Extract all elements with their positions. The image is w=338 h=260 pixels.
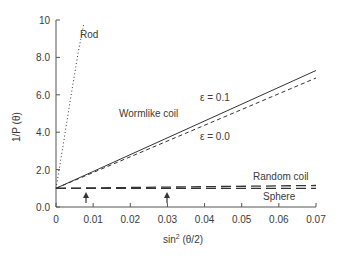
arrow-icon (164, 192, 170, 203)
y-tick-label: 4.0 (36, 127, 50, 138)
y-tick-label: 6.0 (36, 90, 50, 101)
x-tick-label: 0 (53, 214, 59, 225)
y-tick-label: 0.0 (36, 202, 50, 213)
x-tick-label: 0.07 (306, 214, 326, 225)
label-random-coil: Random coil (253, 171, 309, 182)
series (56, 24, 316, 189)
y-tick-label: 10 (39, 15, 51, 26)
y-tick-label: 2.0 (36, 165, 50, 176)
label-wormlike: Wormlike coil (119, 108, 178, 119)
chart: 0.02.04.06.08.010 00.010.020.030.040.050… (0, 0, 338, 260)
x-tick-label: 0.01 (83, 214, 103, 225)
x-tick-label: 0.05 (232, 214, 252, 225)
x-ticks: 00.010.020.030.040.050.060.07 (53, 203, 326, 225)
label-eps-0-1: ε = 0.1 (200, 92, 230, 103)
label-eps-0-0: ε = 0.0 (200, 131, 230, 142)
y-axis-title: 1/P (θ) (11, 112, 22, 142)
y-tick-label: 8.0 (36, 52, 50, 63)
x-tick-label: 0.02 (121, 214, 141, 225)
label-sphere: Sphere (263, 191, 296, 202)
arrow-markers (83, 192, 170, 203)
arrow-icon (83, 192, 89, 203)
label-rod: Rod (80, 29, 98, 40)
series-line (56, 24, 84, 189)
x-tick-label: 0.03 (158, 214, 178, 225)
x-tick-label: 0.04 (195, 214, 215, 225)
x-tick-label: 0.06 (269, 214, 289, 225)
x-axis-title: sin2 (θ/2) (163, 233, 203, 245)
